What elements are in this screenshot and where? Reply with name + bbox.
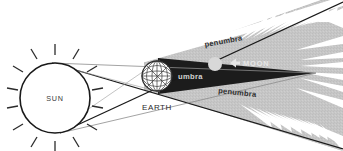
eclipse-diagram-canvas: SUN EARTH umbra [0,0,343,151]
eclipse-diagram: SUN EARTH umbra [0,0,343,151]
moon-label: MOON [243,59,270,68]
sun-label: SUN [46,94,63,103]
umbra-label: umbra [178,72,203,81]
earth-body: EARTH [142,61,172,112]
moon-disc [208,57,222,71]
earth-label: EARTH [142,103,172,112]
